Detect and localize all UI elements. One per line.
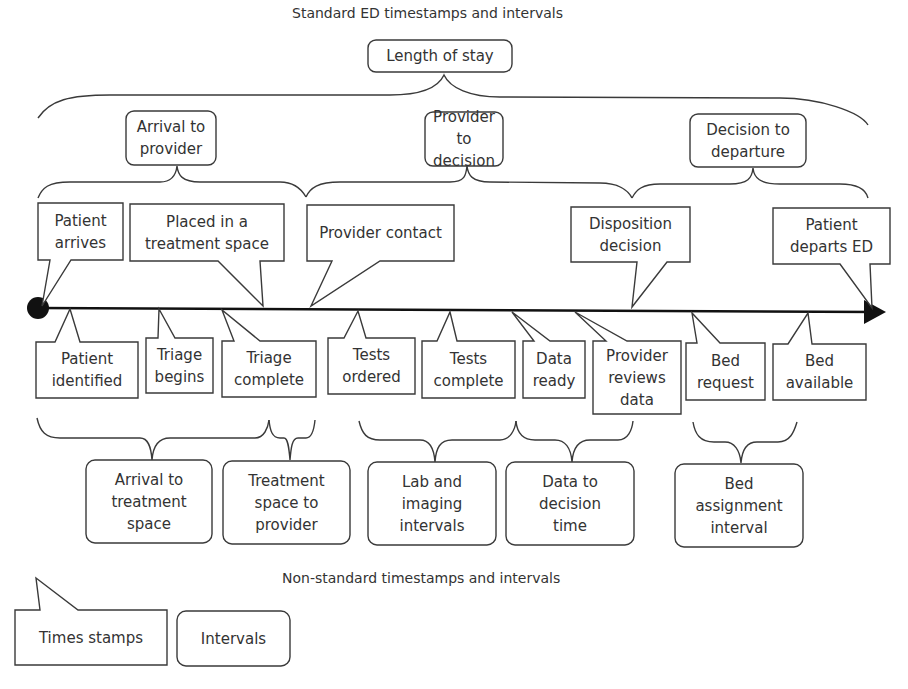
timestamp-tests-ordered: Tests ordered bbox=[328, 338, 415, 394]
arrival-to-provider-bracket bbox=[38, 166, 306, 198]
timestamp-provider-contact: Provider contact bbox=[307, 205, 454, 261]
timestamp-disposition-decision: Disposition decision bbox=[571, 207, 690, 262]
timestamp-placed-in-treatment-space: Placed in a treatment space bbox=[130, 204, 284, 261]
legend-intervals-label: Intervals bbox=[177, 611, 290, 666]
interval-treatment-to-provider: Treatment space to provider bbox=[223, 461, 350, 544]
data-to-decision-bracket bbox=[516, 421, 633, 462]
decision-to-departure-bracket bbox=[632, 168, 868, 198]
arrival-to-provider-label: Arrival to provider bbox=[126, 111, 216, 165]
timestamp-patient-arrives: Patient arrives bbox=[38, 203, 123, 260]
timestamp-triage-complete: Triage complete bbox=[222, 341, 316, 397]
legend-timestamps-label: Times stamps bbox=[15, 610, 167, 665]
timestamp-bed-request: Bed request bbox=[686, 343, 765, 400]
interval-arrival-to-treatment: Arrival to treatment space bbox=[86, 460, 212, 543]
bed-assignment-bracket bbox=[693, 422, 797, 463]
interval-bed-assignment: Bed assignment interval bbox=[675, 464, 803, 547]
treatment-to-provider-bracket bbox=[269, 420, 315, 460]
timeline-axis bbox=[38, 308, 876, 312]
timeline-end-arrow bbox=[864, 300, 886, 324]
provider-to-decision-label: Provider to decision bbox=[425, 112, 503, 166]
timestamp-triage-begins: Triage begins bbox=[146, 338, 213, 393]
ed-timeline-diagram: Standard ED timestamps and intervals Non… bbox=[0, 0, 908, 689]
timestamp-data-ready: Data ready bbox=[523, 341, 585, 398]
timestamp-bed-available: Bed available bbox=[773, 344, 866, 400]
timestamp-tests-complete: Tests complete bbox=[422, 341, 515, 398]
decision-to-departure-label: Decision to departure bbox=[690, 114, 806, 167]
interval-data-to-decision: Data to decision time bbox=[506, 462, 634, 545]
standard-title: Standard ED timestamps and intervals bbox=[292, 5, 563, 21]
length-of-stay-label: Length of stay bbox=[368, 40, 512, 72]
arrival-to-treatment-bracket bbox=[37, 418, 269, 460]
timestamp-patient-identified: Patient identified bbox=[36, 342, 138, 398]
lab-imaging-bracket bbox=[359, 421, 516, 462]
nonstandard-title: Non-standard timestamps and intervals bbox=[282, 570, 560, 586]
interval-lab-imaging: Lab and imaging intervals bbox=[368, 462, 496, 545]
timestamp-provider-reviews-data: Provider reviews data bbox=[593, 341, 681, 414]
timestamp-patient-departs: Patient departs ED bbox=[773, 208, 890, 264]
